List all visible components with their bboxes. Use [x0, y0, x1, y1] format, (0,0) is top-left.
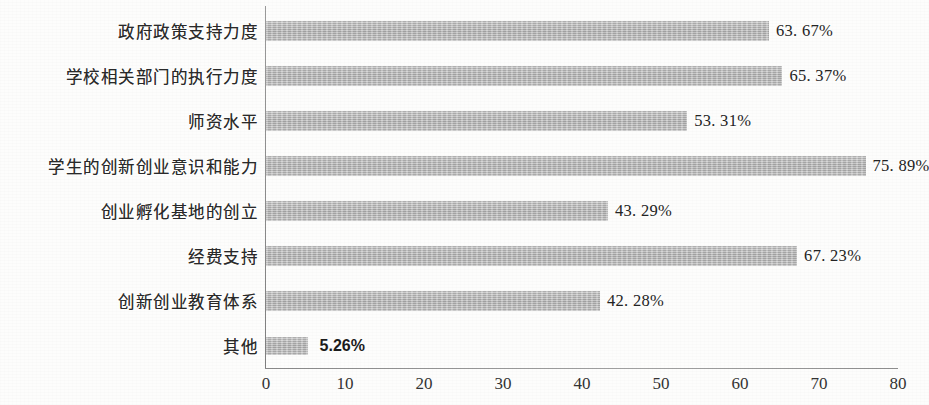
x-tick-label: 20 — [416, 374, 433, 394]
category-label: 政府政策支持力度 — [118, 19, 258, 43]
x-tick-label: 70 — [811, 374, 828, 394]
bar-row: 创新创业教育体系42. 28% — [0, 279, 929, 323]
bar-value-label: 65. 37% — [789, 66, 846, 86]
bar — [266, 201, 608, 221]
category-label: 其他 — [223, 334, 258, 358]
bar — [266, 246, 797, 266]
bar-value-label: 75. 89% — [873, 156, 929, 176]
bar-value-label: 5.26% — [320, 337, 365, 355]
category-label: 创新创业教育体系 — [118, 289, 258, 313]
category-label: 经费支持 — [188, 244, 258, 268]
bar — [266, 111, 687, 131]
bar-row: 政府政策支持力度63. 67% — [0, 9, 929, 53]
bar-row: 学生的创新创业意识和能力75. 89% — [0, 144, 929, 188]
category-label: 学校相关部门的执行力度 — [66, 64, 259, 88]
category-label: 创业孵化基地的创立 — [101, 199, 259, 223]
x-tick-label: 10 — [337, 374, 354, 394]
bar-row: 经费支持67. 23% — [0, 234, 929, 278]
bar-value-label: 43. 29% — [615, 201, 672, 221]
bar-row: 学校相关部门的执行力度65. 37% — [0, 54, 929, 98]
bar-row: 创业孵化基地的创立43. 29% — [0, 189, 929, 233]
x-tick-label: 30 — [495, 374, 512, 394]
x-axis-line — [265, 368, 898, 369]
x-tick-label: 50 — [653, 374, 670, 394]
category-label: 师资水平 — [188, 109, 258, 133]
bar-row: 师资水平53. 31% — [0, 99, 929, 143]
x-tick-label: 60 — [732, 374, 749, 394]
bar — [266, 21, 769, 41]
x-tick-label: 80 — [890, 374, 907, 394]
bar — [266, 337, 308, 355]
bar — [266, 156, 866, 176]
x-tick-label: 0 — [262, 374, 271, 394]
category-label: 学生的创新创业意识和能力 — [48, 154, 258, 178]
horizontal-bar-chart: 政府政策支持力度63. 67%学校相关部门的执行力度65. 37%师资水平53.… — [0, 0, 929, 405]
bar-row: 其他5.26% — [0, 324, 929, 368]
x-tick-label: 40 — [574, 374, 591, 394]
bar-value-label: 42. 28% — [607, 291, 664, 311]
bar — [266, 291, 600, 311]
bar-value-label: 53. 31% — [694, 111, 751, 131]
bar — [266, 66, 782, 86]
bar-value-label: 67. 23% — [804, 246, 861, 266]
bar-value-label: 63. 67% — [776, 21, 833, 41]
